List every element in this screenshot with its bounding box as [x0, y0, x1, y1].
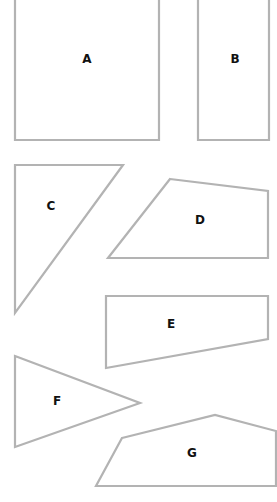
shape-a-label: A [82, 52, 92, 66]
shape-e: E [106, 296, 268, 368]
shape-f: F [15, 356, 140, 447]
shape-c-outline [15, 165, 123, 313]
shape-a: A [15, 0, 159, 140]
shape-f-label: F [53, 394, 61, 408]
shape-f-outline [15, 356, 140, 447]
shape-d-label: D [195, 213, 205, 227]
shape-g: G [96, 415, 276, 486]
shape-a-outline [15, 0, 159, 140]
shape-g-label: G [187, 446, 197, 460]
shape-c: C [15, 165, 123, 313]
shape-b-outline [198, 0, 269, 140]
shape-e-outline [106, 296, 268, 368]
shapes-diagram: A B C D E F G [0, 0, 277, 502]
shape-d: D [108, 179, 268, 258]
shape-b: B [198, 0, 269, 140]
shape-g-outline [96, 415, 276, 486]
shape-e-label: E [167, 317, 175, 331]
shape-b-label: B [230, 52, 239, 66]
shape-c-label: C [47, 199, 56, 213]
shape-d-outline [108, 179, 268, 258]
